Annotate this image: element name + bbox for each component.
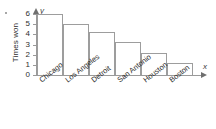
corner-dot-marker xyxy=(5,12,7,14)
y-axis-tick xyxy=(33,75,37,76)
bar-chart: y x Times won 0123456 ChicagoLos Angeles… xyxy=(0,0,216,129)
y-axis-tick-label: 6 xyxy=(20,10,30,18)
y-axis-tick-label: 4 xyxy=(20,30,30,38)
y-axis-tick-label: 3 xyxy=(20,41,30,49)
y-axis-title: Times won xyxy=(11,16,20,70)
y-axis-tick-label: 0 xyxy=(20,71,30,79)
y-axis-tick-label: 5 xyxy=(20,20,30,28)
y-axis-tick-label: 1 xyxy=(20,61,30,69)
x-axis-letter-label: x xyxy=(203,63,207,71)
y-axis-tick-label: 2 xyxy=(20,51,30,59)
